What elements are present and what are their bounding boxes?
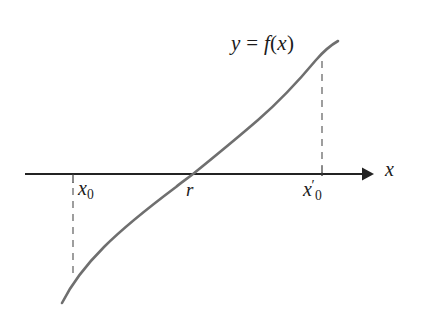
- label-x0: x0: [78, 178, 94, 201]
- function-label-close-paren: ): [287, 31, 294, 55]
- function-label: y = f(x): [231, 33, 294, 54]
- label-x0-subscript: 0: [87, 187, 94, 202]
- label-x0-base: x: [78, 177, 87, 199]
- function-label-x: x: [277, 31, 287, 55]
- axis-label-x: x: [385, 159, 394, 179]
- figure-canvas: y = f(x) x0 r x′0 x: [0, 0, 422, 327]
- label-x0-prime-subscript: 0: [315, 188, 322, 203]
- label-x0-prime-base: x: [303, 178, 312, 200]
- x-axis-arrowhead: [362, 168, 374, 181]
- label-x0-prime: x′0: [303, 178, 322, 202]
- function-label-y: y: [231, 31, 241, 55]
- label-root: r: [186, 180, 193, 199]
- function-curve: [62, 41, 338, 303]
- function-label-equals: =: [246, 31, 258, 55]
- function-graph-svg: [0, 0, 422, 327]
